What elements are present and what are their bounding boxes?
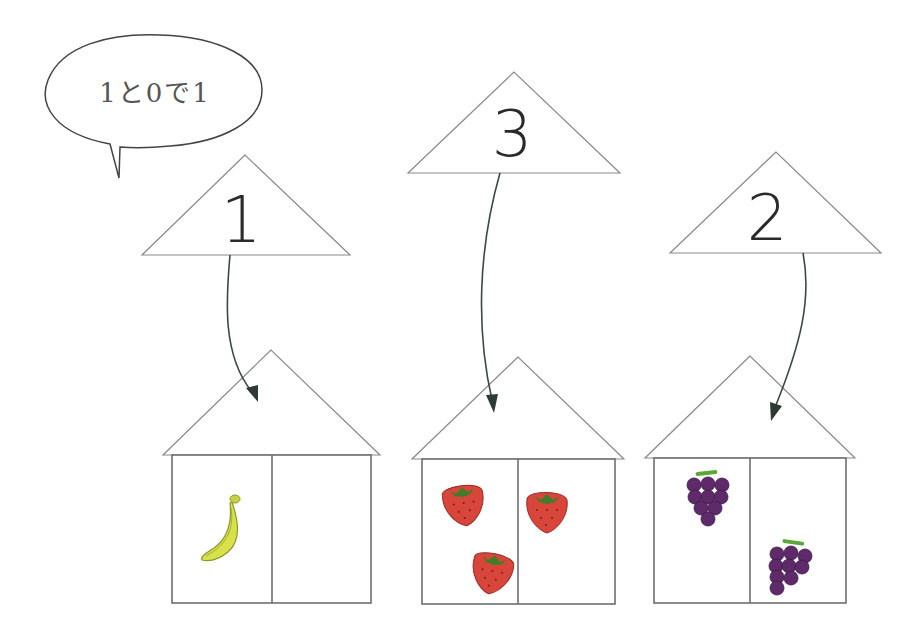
number-triangle-middle: 3 [408, 72, 620, 173]
triangle-number: 1 [221, 183, 262, 257]
number-houses-diagram: 1と0で1 1 3 2 [0, 0, 912, 640]
house-roof [412, 357, 624, 459]
house-left [163, 350, 380, 603]
speech-bubble-text: 1と0で1 [99, 78, 211, 108]
speech-bubble: 1と0で1 [45, 35, 262, 178]
house-middle [412, 357, 624, 604]
house-roof [163, 350, 380, 455]
house-right [645, 356, 855, 603]
triangle-number: 2 [747, 181, 788, 255]
house-roof [645, 356, 855, 458]
triangle-number: 3 [492, 97, 533, 171]
arrow-line [482, 173, 500, 400]
arrow-line [776, 253, 806, 405]
number-triangle-left: 1 [142, 155, 350, 257]
number-triangle-right: 2 [670, 152, 881, 255]
